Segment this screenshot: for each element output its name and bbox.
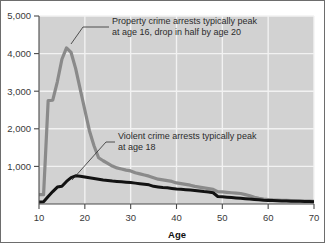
- crime-arrests-age-chart: 1,0002,0003,0004,0005,000 10203040506070…: [0, 0, 325, 243]
- x-tick-label: 70: [309, 212, 320, 223]
- property-annotation-line2: at age 16, drop in half by age 20: [112, 27, 241, 37]
- x-axis-ticks: 10203040506070: [34, 204, 320, 223]
- property-annotation-line1: Property crime arrests typically peak: [112, 16, 258, 26]
- x-tick-label: 40: [171, 212, 182, 223]
- y-tick-label: 2,000: [7, 123, 31, 134]
- chart-canvas: 1,0002,0003,0004,0005,000 10203040506070…: [1, 1, 325, 243]
- y-tick-label: 5,000: [7, 10, 31, 21]
- y-tick-label: 4,000: [7, 48, 31, 59]
- y-tick-label: 3,000: [7, 86, 31, 97]
- x-tick-label: 10: [34, 212, 45, 223]
- violent-annotation-line2: at age 18: [118, 142, 156, 152]
- y-tick-label: 1,000: [7, 161, 31, 172]
- x-tick-label: 20: [80, 212, 91, 223]
- violent-annotation-line1: Violent crime arrests typically peak: [118, 131, 257, 141]
- x-tick-label: 30: [125, 212, 136, 223]
- y-axis-ticks: 1,0002,0003,0004,0005,000: [7, 10, 39, 171]
- x-tick-label: 60: [263, 212, 274, 223]
- x-tick-label: 50: [217, 212, 228, 223]
- x-axis-title: Age: [168, 229, 186, 240]
